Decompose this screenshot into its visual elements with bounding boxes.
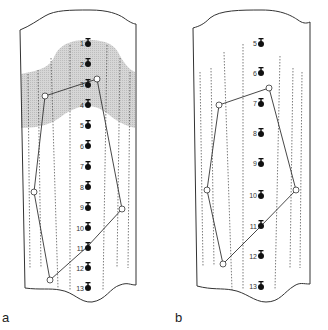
panel-a: 1 2 3 4 5 6 7 8 9 10 11 12 13 a <box>2 10 136 325</box>
svg-text:10: 10 <box>249 192 257 199</box>
shaded-region <box>21 40 135 128</box>
response-polygon <box>207 88 296 264</box>
svg-text:1: 1 <box>80 40 84 47</box>
svg-text:11: 11 <box>77 245 84 252</box>
svg-text:5: 5 <box>80 122 84 129</box>
svg-text:5: 5 <box>253 40 257 47</box>
svg-text:10: 10 <box>76 225 84 232</box>
svg-text:12: 12 <box>249 253 257 260</box>
panel-b: 5 6 7 8 9 10 11 12 13 b <box>175 10 310 325</box>
panel-label-a: a <box>2 310 10 325</box>
svg-text:3: 3 <box>80 81 84 88</box>
svg-text:8: 8 <box>253 130 257 137</box>
svg-text:8: 8 <box>80 184 84 191</box>
svg-text:7: 7 <box>253 100 257 107</box>
svg-text:13: 13 <box>249 283 257 290</box>
figure-canvas: 1 2 3 4 5 6 7 8 9 10 11 12 13 a <box>0 0 328 330</box>
svg-text:11: 11 <box>250 223 257 230</box>
svg-text:13: 13 <box>76 285 84 292</box>
electrodes-b <box>258 38 264 290</box>
svg-text:12: 12 <box>76 265 84 272</box>
svg-text:6: 6 <box>80 143 84 150</box>
svg-text:9: 9 <box>253 160 257 167</box>
svg-text:7: 7 <box>80 163 84 170</box>
svg-text:6: 6 <box>253 70 257 77</box>
svg-text:9: 9 <box>80 204 84 211</box>
electrode-labels-b: 5 6 7 8 9 10 11 12 13 <box>249 40 257 290</box>
panel-label-b: b <box>175 310 182 325</box>
svg-text:2: 2 <box>80 61 84 68</box>
svg-text:4: 4 <box>80 102 84 109</box>
